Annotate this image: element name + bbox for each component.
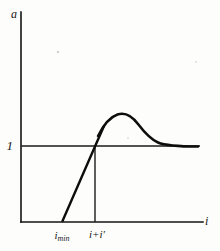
scan-speck-icon: [195, 61, 196, 62]
scan-speck-icon: [127, 137, 128, 138]
rising-straight-line: [63, 126, 105, 221]
figure-container: a i 1 imin i+i′: [0, 0, 220, 251]
x-axis-label: i: [205, 215, 208, 227]
y-axis-tick-label-one: 1: [7, 139, 18, 152]
tick-imin-subscript: min: [58, 234, 70, 243]
plot-canvas: [0, 0, 220, 251]
hump-curve: [98, 114, 198, 147]
y-axis-label: a: [11, 8, 20, 20]
scan-speck-icon: [57, 51, 59, 53]
x-axis-tick-label-isum: i+i′: [89, 229, 105, 240]
x-axis-tick-label-imin: imin: [55, 230, 70, 243]
